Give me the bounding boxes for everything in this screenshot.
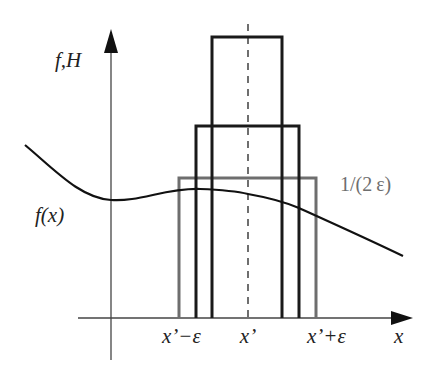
x-axis-label: x [393,324,404,348]
tick-label-right: x’+ε [306,324,346,348]
curve-label: f(x) [35,203,64,227]
y-axis-label: f,H [55,48,83,72]
y-axis [104,29,118,360]
delta-approximation-diagram: f,H x f(x) 1/(2 ε) x’−ε x’ x’+ε [0,0,432,380]
box-height-label: 1/(2 ε) [340,173,391,196]
x-axis [78,311,413,325]
tick-label-center: x’ [239,324,256,348]
x-axis-arrow-icon [391,311,413,325]
y-axis-arrow-icon [104,29,118,53]
function-curve [25,145,403,256]
tick-label-left: x’−ε [161,324,201,348]
